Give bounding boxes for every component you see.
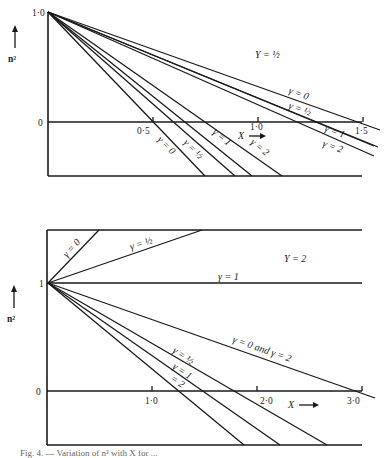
- top-xtick-10: 1·0: [250, 122, 263, 132]
- bottom-ylabel: n²: [7, 314, 15, 324]
- label-bottom-g0-up: γ = 0: [60, 237, 82, 260]
- line-top-gh-lower: [48, 12, 235, 176]
- figure: 1·0 0 0·5 1·0 1·5 n² X Y = ½ γ = 0 γ = ½…: [0, 0, 389, 458]
- top-xlabel: X: [237, 130, 245, 141]
- label-bottom-gh-up: γ = ½: [128, 234, 154, 252]
- bottom-ytick-0: 0: [36, 387, 41, 397]
- line-top-g0-lower: [48, 12, 205, 176]
- label-bottom-g1: γ = 1: [218, 271, 239, 282]
- bottom-panel-label: Y = 2: [284, 253, 306, 264]
- line-bottom-g0-and-g2: [48, 283, 375, 398]
- line-top-g0-upper: [48, 12, 380, 130]
- arrow-up-icon: [11, 285, 17, 292]
- label-top-g1-lower: γ = 1: [211, 126, 234, 148]
- arrow-right-icon: [313, 402, 319, 408]
- bottom-xtick-10: 1·0: [145, 396, 158, 406]
- label-bottom-g0-and-g2: γ = 0 and γ = 2: [231, 333, 293, 363]
- bottom-xtick-30: 3·0: [347, 396, 360, 406]
- bottom-ytick-1: 1: [39, 279, 44, 289]
- top-ylabel: n²: [8, 54, 16, 64]
- line-top-g1-lower: [48, 12, 252, 176]
- line-bottom-gh-up: [48, 230, 202, 283]
- line-bottom-g2-low: [48, 283, 244, 445]
- top-xtick-15: 1·5: [355, 126, 368, 136]
- bottom-xlabel: X: [287, 399, 295, 410]
- bottom-xtick-20: 2·0: [260, 396, 273, 406]
- top-panel-label: Y = ½: [255, 49, 280, 60]
- top-xtick-05: 0·5: [137, 126, 150, 136]
- bottom-panel: 1 0 1·0 2·0 3·0 n² X Y = 2 γ = 0 γ = ½ γ…: [7, 230, 375, 445]
- figure-caption: Fig. 4. — Variation of n² with X for ...: [20, 448, 158, 458]
- label-top-g2-upper: γ = 2: [321, 138, 344, 155]
- line-bottom-g1-low: [48, 283, 280, 445]
- label-top-gh-lower: γ = ½: [182, 137, 206, 162]
- top-ytick-1: 1·0: [32, 8, 45, 18]
- arrow-up-icon: [12, 25, 18, 32]
- top-panel: 1·0 0 0·5 1·0 1·5 n² X Y = ½ γ = 0 γ = ½…: [8, 8, 380, 176]
- label-top-g0-lower: γ = 0: [156, 134, 178, 157]
- top-ytick-0: 0: [38, 118, 43, 128]
- arrow-right-icon: [260, 133, 266, 139]
